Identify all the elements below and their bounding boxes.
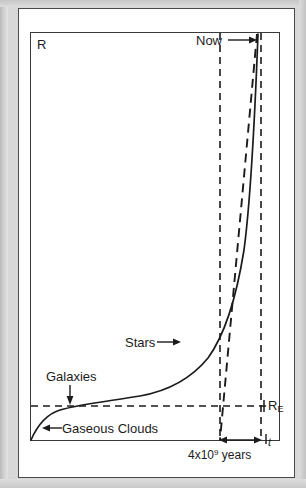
timespan-unit: years — [218, 448, 251, 462]
stars-arrow-icon — [157, 339, 181, 346]
timespan-exponent: 9 — [214, 448, 218, 457]
hubble-tangent-dashed-line — [220, 34, 257, 440]
plot-graphics — [0, 0, 306, 488]
figure-page: R Now Stars Galaxies Gaseous Clouds RE t… — [0, 0, 306, 488]
timespan-value: 4x10 — [188, 448, 214, 462]
galaxies-label: Galaxies — [46, 370, 97, 383]
y-axis-label: R — [37, 38, 46, 51]
stars-label: Stars — [125, 336, 155, 349]
timespan-label: 4x109 years — [188, 449, 251, 461]
re-label-main: R — [268, 398, 277, 413]
galaxies-arrow-icon — [67, 385, 74, 405]
timespan-measure-arrow — [219, 437, 262, 444]
gaseous-clouds-label: Gaseous Clouds — [62, 422, 158, 435]
gaseous-clouds-arrow-icon — [42, 425, 62, 432]
t-axis-label: t — [268, 437, 271, 448]
now-arrow-icon — [228, 37, 257, 44]
re-label-subscript: E — [277, 404, 283, 414]
now-label: Now — [196, 34, 222, 47]
re-label: RE — [268, 399, 283, 412]
